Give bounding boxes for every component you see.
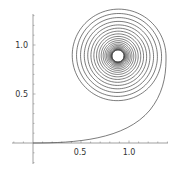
spiral-curve: [33, 9, 166, 143]
y-tick-label: 0.5: [15, 90, 28, 99]
x-tick-label: 0.5: [74, 148, 87, 157]
spiral-chart: 0.5 1.0 0.5 1.0: [0, 0, 183, 175]
y-axis: [33, 14, 36, 164]
x-axis: [12, 141, 168, 144]
x-tick-label: 1.0: [123, 148, 136, 157]
y-tick-label: 1.0: [15, 41, 28, 50]
